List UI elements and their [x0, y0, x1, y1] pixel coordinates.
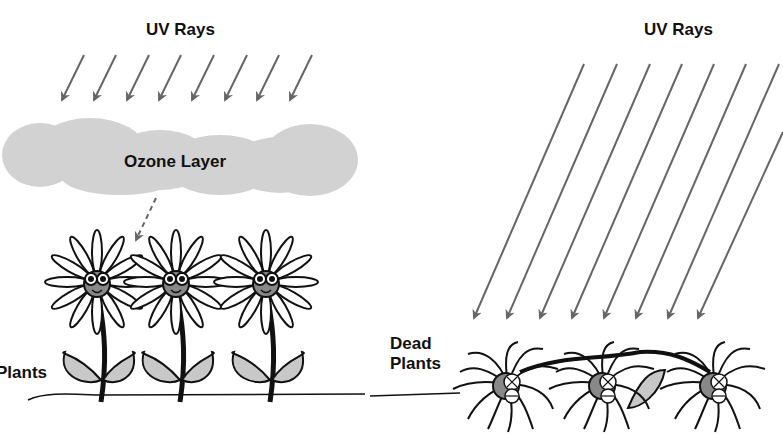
dead-plants-label-line2: Plants: [390, 354, 441, 374]
healthy-flower: [124, 230, 228, 402]
dead-plants-label-line1: Dead: [390, 334, 432, 354]
ground-line-right: [370, 393, 460, 396]
dead-flower: [453, 342, 558, 432]
healthy-flower: [214, 230, 318, 402]
left-uv-arrows: [62, 55, 312, 100]
right-uv-arrows: [474, 64, 783, 318]
ground-line-left: [28, 394, 365, 400]
ozone-layer-label: Ozone Layer: [124, 152, 226, 172]
plants-label: Plants: [0, 363, 47, 383]
filtered-uv-arrow: [136, 198, 156, 240]
left-uv-rays-label: UV Rays: [146, 20, 215, 40]
right-uv-rays-label: UV Rays: [644, 20, 713, 40]
